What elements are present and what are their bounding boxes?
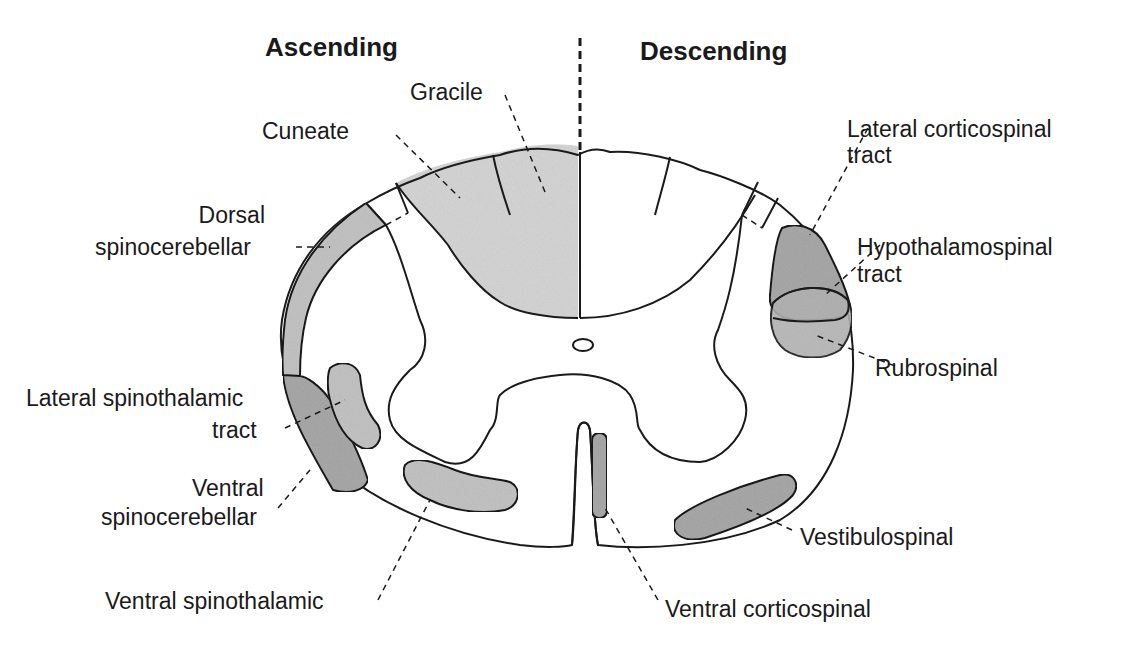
right-dorsal-horn-edge — [580, 195, 755, 318]
leader-ventral-corticospinal — [605, 508, 658, 600]
header-ascending: Ascending — [265, 32, 398, 62]
right-dorsal-septum — [655, 157, 670, 215]
tract-rubrospinal — [771, 288, 852, 358]
label-lateral-corticospinal-1: Lateral corticospinal — [847, 116, 1052, 142]
label-hypothalamospinal-1: Hypothalamospinal — [857, 234, 1053, 260]
right-root-dotted — [742, 215, 762, 228]
label-rubrospinal: Rubrospinal — [875, 355, 998, 381]
leader-ventral-spinothalamic — [378, 500, 430, 600]
spinal-cord-diagram: Ascending Descending Gracile Cuneate Dor… — [0, 0, 1140, 645]
label-dorsal-spinocerebellar-1: Dorsal — [199, 202, 265, 228]
tract-ventral-spinothalamic — [404, 460, 518, 512]
label-cuneate: Cuneate — [262, 118, 349, 144]
label-dorsal-spinocerebellar-2: spinocerebellar — [95, 234, 251, 260]
label-vestibulospinal: Vestibulospinal — [800, 524, 953, 550]
label-ventral-spinothalamic: Ventral spinothalamic — [105, 588, 324, 614]
header-descending: Descending — [640, 36, 787, 66]
label-hypothalamospinal-2: tract — [857, 261, 902, 287]
leader-ventral-spinocerebellar — [278, 470, 310, 508]
label-ventral-spinocerebellar-1: Ventral — [192, 475, 264, 501]
tract-ventral-corticospinal — [592, 433, 607, 518]
label-ventral-spinocerebellar-2: spinocerebellar — [101, 504, 257, 530]
label-lateral-spinothalamic-1: Lateral spinothalamic — [26, 385, 243, 411]
label-gracile: Gracile — [410, 79, 483, 105]
tract-vestibulospinal — [674, 475, 796, 540]
label-lateral-spinothalamic-2: tract — [212, 417, 257, 443]
right-root-entry — [742, 182, 778, 228]
label-lateral-corticospinal-2: tract — [847, 142, 892, 168]
label-ventral-corticospinal: Ventral corticospinal — [665, 596, 871, 622]
tract-dorsal-spinocerebellar — [282, 203, 386, 376]
left-root-dotted — [386, 213, 408, 225]
central-canal — [573, 339, 593, 351]
